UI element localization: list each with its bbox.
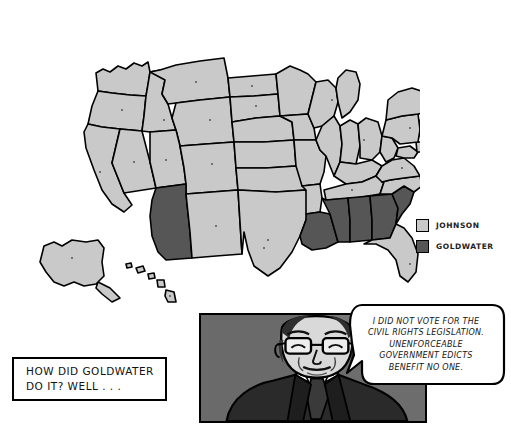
state-CO[interactable] [180, 142, 238, 194]
state-OH[interactable] [358, 118, 382, 160]
caption-text: HOW DID GOLDWATER DO IT? WELL . . . [14, 364, 154, 394]
state-ND[interactable] [228, 74, 278, 97]
state-NM[interactable] [186, 190, 242, 258]
state-MD[interactable] [396, 146, 418, 158]
comic-page: JOHNSON GOLDWATER HOW DID GOLDWATER DO I… [0, 0, 511, 429]
legend-swatch-goldwater [416, 240, 429, 253]
election-map [0, 0, 420, 315]
legend-label-goldwater: GOLDWATER [436, 242, 494, 251]
state-WA[interactable] [96, 62, 150, 96]
state-WY[interactable] [172, 97, 234, 146]
state-OR[interactable] [88, 91, 146, 131]
state-KS[interactable] [234, 140, 296, 168]
state-DE[interactable] [416, 142, 420, 152]
legend-swatch-johnson [416, 219, 429, 232]
state-AK[interactable] [40, 240, 120, 302]
legend-item-johnson[interactable]: JOHNSON [416, 217, 511, 234]
legend-item-goldwater[interactable]: GOLDWATER [416, 238, 511, 255]
us-map-svg [0, 0, 420, 315]
state-HI[interactable] [126, 263, 176, 302]
speech-bubble-text: I DID NOT VOTE FOR THE CIVIL RIGHTS LEGI… [356, 316, 496, 373]
legend-label-johnson: JOHNSON [436, 221, 480, 230]
map-legend: JOHNSON GOLDWATER [416, 217, 511, 259]
state-NE[interactable] [232, 116, 294, 142]
state-MI[interactable] [336, 70, 360, 118]
state-TX[interactable] [238, 190, 310, 276]
state-AL[interactable] [348, 196, 372, 242]
state-IN[interactable] [340, 120, 360, 164]
caption-box: HOW DID GOLDWATER DO IT? WELL . . . [12, 357, 167, 401]
speech-bubble: I DID NOT VOTE FOR THE CIVIL RIGHTS LEGI… [344, 303, 507, 387]
